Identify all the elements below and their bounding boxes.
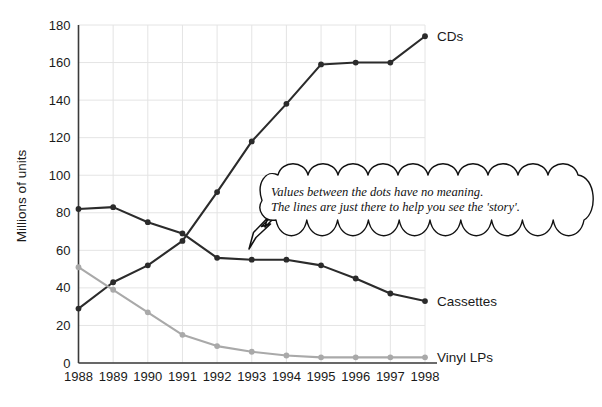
y-tick-label: 60 (56, 243, 70, 258)
data-point (318, 62, 324, 68)
data-point (180, 231, 186, 237)
x-axis-tick-labels: 1988198919901991199219931994199519961997… (64, 369, 439, 384)
data-point (422, 298, 428, 304)
data-point (387, 291, 393, 297)
data-point (76, 264, 82, 270)
callout-line-2: The lines are just there to help you see… (271, 200, 520, 214)
data-point (180, 238, 186, 244)
data-point (353, 354, 359, 360)
data-point (318, 262, 324, 268)
x-tick-label: 1996 (341, 369, 370, 384)
data-point (145, 309, 151, 315)
x-tick-label: 1993 (237, 369, 266, 384)
data-point (145, 219, 151, 225)
data-point (110, 204, 116, 210)
data-point (284, 257, 290, 263)
chart-canvas: 020406080100120140160180 198819891990199… (0, 0, 602, 407)
data-point (249, 139, 255, 145)
data-point (180, 332, 186, 338)
data-point (214, 255, 220, 261)
data-point (110, 287, 116, 293)
data-point (318, 354, 324, 360)
series-label-vinyl-lps: Vinyl LPs (437, 350, 493, 365)
x-tick-label: 1991 (168, 369, 197, 384)
y-tick-label: 40 (56, 280, 70, 295)
x-tick-label: 1989 (99, 369, 128, 384)
data-point (422, 354, 428, 360)
data-point (284, 101, 290, 107)
x-tick-label: 1988 (64, 369, 93, 384)
y-tick-label: 80 (56, 205, 70, 220)
callout-bubble: Values between the dots have no meaning.… (260, 164, 593, 236)
y-tick-label: 20 (56, 318, 70, 333)
x-tick-label: 1994 (272, 369, 301, 384)
x-tick-label: 1992 (203, 369, 232, 384)
data-point (284, 353, 290, 359)
data-point (249, 257, 255, 263)
data-point (76, 306, 82, 312)
x-tick-label: 1995 (307, 369, 336, 384)
data-point (353, 276, 359, 282)
data-point (422, 33, 428, 39)
x-tick-label: 1997 (376, 369, 405, 384)
data-point (387, 354, 393, 360)
data-point (214, 189, 220, 195)
series-label-cassettes: Cassettes (437, 294, 497, 309)
data-point (387, 60, 393, 66)
x-tick-label: 1990 (133, 369, 162, 384)
data-point (110, 279, 116, 285)
y-tick-label: 140 (49, 93, 71, 108)
y-axis-title: Millions of units (14, 150, 29, 243)
series-label-cds: CDs (437, 29, 463, 44)
data-point (214, 343, 220, 349)
line-chart: 020406080100120140160180 198819891990199… (0, 0, 602, 407)
x-tick-label: 1998 (411, 369, 440, 384)
y-tick-label: 100 (49, 168, 71, 183)
data-point (353, 60, 359, 66)
y-tick-label: 120 (49, 130, 71, 145)
data-point (76, 206, 82, 212)
callout-line-1: Values between the dots have no meaning. (271, 185, 483, 199)
data-point (145, 262, 151, 268)
y-tick-label: 180 (49, 18, 71, 33)
y-tick-label: 160 (49, 55, 71, 70)
data-point (249, 349, 255, 355)
